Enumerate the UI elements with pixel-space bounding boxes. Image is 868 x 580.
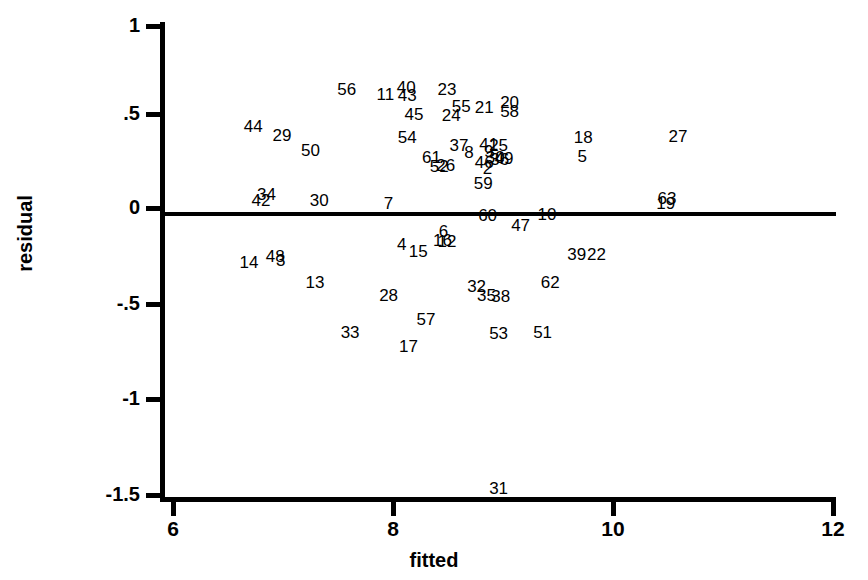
data-point-label: 10: [538, 206, 557, 223]
data-point-label: 47: [511, 216, 530, 233]
data-point-label: 36: [490, 151, 509, 168]
y-tick-mark: [146, 397, 160, 402]
data-point-label: 31: [489, 480, 508, 497]
data-point-label: 12: [437, 232, 456, 249]
data-point-label: 18: [574, 128, 593, 145]
x-tick-label: 12: [803, 518, 863, 539]
data-point-label: 44: [244, 118, 263, 135]
y-tick-mark: [146, 302, 160, 307]
data-point-label: 29: [272, 126, 291, 143]
data-point-label: 19: [656, 195, 675, 212]
y-tick-label: -.5: [80, 293, 140, 313]
plot-area: 1 .5 0 -.5 -1 -1.5 6 8 10 12 fitted resi…: [0, 0, 868, 580]
data-point-label: 27: [668, 127, 687, 144]
data-point-label: 58: [500, 103, 519, 120]
y-tick-mark: [146, 112, 160, 117]
data-point-label: 59: [474, 174, 493, 191]
y-tick-label: 1: [80, 15, 140, 35]
data-point-label: 33: [341, 323, 360, 340]
data-point-label: 26: [436, 156, 455, 173]
y-tick-label: 0: [80, 197, 140, 217]
y-tick-label: -1: [80, 388, 140, 408]
data-point-label: 3: [276, 252, 285, 269]
data-point-label: 21: [475, 98, 494, 115]
x-tick-label: 8: [363, 518, 423, 539]
y-tick-label: .5: [80, 103, 140, 123]
data-point-label: 39: [567, 245, 586, 262]
data-point-label: 51: [533, 323, 552, 340]
data-point-label: 50: [301, 141, 320, 158]
data-point-label: 17: [399, 337, 418, 354]
data-point-label: 62: [541, 273, 560, 290]
x-tick-label: 6: [143, 518, 203, 539]
y-tick-mark: [146, 493, 160, 498]
data-point-label: 14: [239, 254, 258, 271]
data-point-label: 8: [464, 143, 473, 160]
data-point-label: 28: [379, 287, 398, 304]
y-axis-title: residual: [14, 164, 37, 304]
data-point-label: 54: [398, 129, 417, 146]
x-tick-mark: [831, 502, 836, 516]
data-point-label: 13: [305, 273, 324, 290]
x-tick-label: 10: [583, 518, 643, 539]
y-tick-label: -1.5: [80, 484, 140, 504]
data-point-label: 56: [337, 80, 356, 97]
data-point-label: 5: [577, 148, 586, 165]
data-point-label: 11: [376, 86, 394, 103]
data-point-label: 4: [397, 236, 406, 253]
x-tick-mark: [171, 502, 176, 516]
data-point-label: 7: [384, 195, 393, 212]
data-point-label: 30: [310, 192, 329, 209]
data-point-label: 57: [417, 311, 436, 328]
data-point-label: 15: [409, 242, 428, 259]
data-point-label: 22: [587, 245, 606, 262]
data-point-label: 38: [491, 288, 510, 305]
data-point-label: 42: [252, 192, 271, 209]
zero-reference-line: [163, 212, 836, 216]
data-point-label: 45: [404, 106, 423, 123]
data-point-label: 23: [437, 80, 456, 97]
data-point-label: 43: [398, 87, 417, 104]
x-tick-mark: [611, 502, 616, 516]
y-axis-line: [160, 22, 165, 500]
data-point-label: 53: [489, 324, 508, 341]
residual-plot-figure: 1 .5 0 -.5 -1 -1.5 6 8 10 12 fitted resi…: [0, 0, 868, 580]
data-point-label: 24: [442, 106, 461, 123]
x-tick-mark: [391, 502, 396, 516]
x-axis-title: fitted: [0, 549, 868, 572]
y-tick-mark: [146, 24, 160, 29]
y-tick-mark: [146, 206, 160, 211]
data-point-label: 60: [478, 207, 497, 224]
